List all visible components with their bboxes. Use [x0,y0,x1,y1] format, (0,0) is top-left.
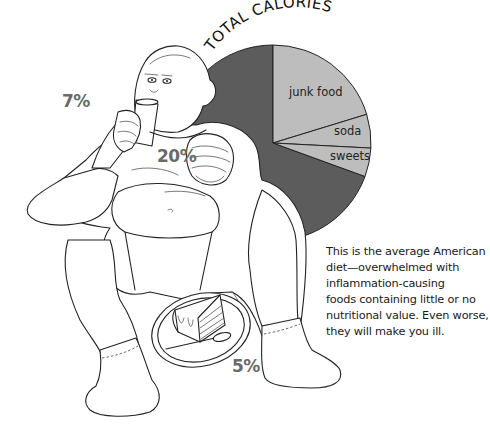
caption-line: foods containing little or no [326,292,490,308]
pie-label-junk-food: junk food [288,85,343,99]
caption-line: This is the average American [326,244,490,260]
caption-line: diet—overwhelmed with [326,260,490,276]
caption-text: This is the average American diet—overwh… [326,244,490,340]
pie-label-sweets: sweets [330,149,370,163]
pie-label-soda: soda [334,124,361,138]
percent-label-burger: 20% [157,146,197,166]
caption-line: they will make you ill. [326,324,490,340]
illustration: junk food soda sweets TOTAL CALORIES [0,0,490,434]
percent-label-cake: 5% [232,356,260,376]
percent-label-drink: 7% [62,91,90,111]
caption-line: inflammation-causing [326,276,490,292]
caption-line: nutritional value. Even worse, [326,308,490,324]
